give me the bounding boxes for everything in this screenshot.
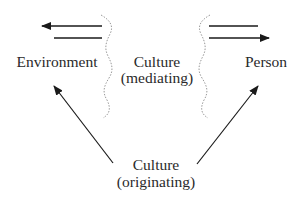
arrow-originating-to-person <box>197 86 258 164</box>
culture-diagram: Environment Culture (mediating) Person C… <box>0 0 300 199</box>
arrow-originating-to-environment <box>54 86 113 163</box>
label-culture-originating-line2: (originating) <box>117 173 195 191</box>
left-boundary <box>101 15 112 118</box>
right-boundary <box>199 15 210 118</box>
label-culture-originating-line1: Culture <box>133 156 180 173</box>
label-culture-mediating-line2: (mediating) <box>121 69 193 87</box>
label-culture-mediating-line1: Culture <box>134 53 181 70</box>
label-environment: Environment <box>17 53 99 70</box>
label-person: Person <box>245 53 287 70</box>
